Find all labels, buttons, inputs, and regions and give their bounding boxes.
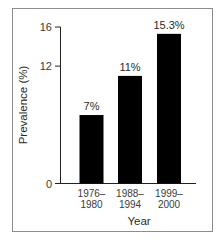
- y-tick-label: 0: [46, 178, 52, 190]
- x-category-labels: 1976–19801988–19941999–2000: [78, 188, 184, 210]
- bar-value-label: 7%: [84, 100, 100, 112]
- y-tick-label: 12: [40, 60, 52, 72]
- bar-chart: 01216 7%11%15.3% 1976–19801988–19941999–…: [0, 0, 220, 241]
- bar-value-label: 11%: [119, 61, 140, 73]
- x-category-label: 1994: [119, 199, 142, 210]
- y-ticks: 01216: [40, 21, 61, 190]
- bar-value-label: 15.3%: [153, 19, 184, 31]
- bar: [157, 34, 181, 184]
- bar: [80, 115, 104, 183]
- x-category-label: 1980: [80, 199, 103, 210]
- y-axis-title: Prevalence (%): [17, 66, 29, 145]
- x-category-label: 1999–: [155, 188, 183, 199]
- x-category-label: 1988–: [116, 188, 144, 199]
- bars: 7%11%15.3%: [80, 19, 185, 184]
- x-category-label: 1976–: [78, 188, 106, 199]
- x-axis-title: Year: [127, 215, 150, 227]
- bar: [118, 76, 142, 184]
- x-category-label: 2000: [158, 199, 181, 210]
- y-tick-label: 16: [40, 21, 52, 33]
